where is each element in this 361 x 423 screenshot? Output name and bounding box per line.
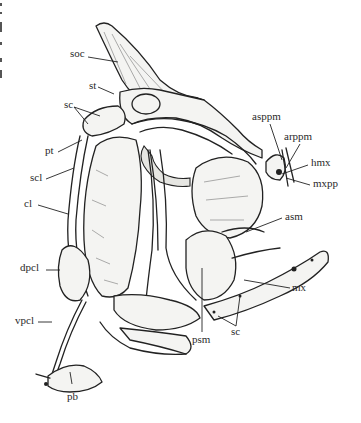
adductor-muscle-psm	[186, 231, 236, 300]
ascending-process-premaxilla	[266, 155, 285, 180]
label-asppm: asppm	[252, 111, 281, 122]
interopercle	[120, 328, 191, 354]
ectopterygoid-plate	[192, 157, 263, 238]
cropped-text-fragment	[0, 58, 2, 62]
label-mx: mx	[292, 282, 306, 293]
label-cl: cl	[24, 198, 32, 209]
cleithrum	[84, 137, 142, 297]
skull-drawing	[0, 0, 361, 423]
cropped-text-fragment	[0, 22, 2, 32]
subopercle	[114, 295, 200, 330]
cropped-text-fragment	[0, 42, 2, 45]
label-dpcl: dpcl	[20, 262, 39, 273]
label-asm: asm	[285, 211, 303, 222]
label-hmx: hmx	[311, 157, 331, 168]
anatomical-illustration: soc st sc pt scl cl dpcl vpcl pb asppm a…	[0, 0, 361, 423]
label-mxpp: mxpp	[313, 178, 338, 189]
posttemporal	[83, 106, 125, 136]
cropped-text-fragment	[0, 3, 2, 6]
label-sc-top: sc	[64, 99, 73, 110]
label-scl: scl	[30, 172, 42, 183]
label-soc: soc	[70, 48, 85, 59]
label-st: st	[89, 80, 96, 91]
label-sc-bottom: sc	[231, 326, 240, 337]
cropped-text-fragment	[0, 12, 2, 14]
label-pb: pb	[67, 391, 78, 402]
label-pt: pt	[45, 145, 54, 156]
label-psm: psm	[192, 334, 210, 345]
cropped-text-fragment	[0, 70, 2, 78]
label-vpcl: vpcl	[15, 315, 34, 326]
orbit-bone	[132, 94, 160, 114]
label-arppm: arppm	[284, 131, 312, 142]
pelvic-bone	[48, 365, 102, 392]
